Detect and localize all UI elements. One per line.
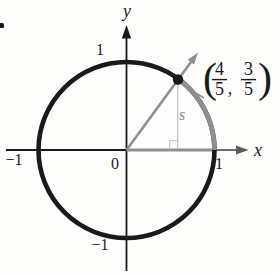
unit-circle-figure: y x 0 1 −1 −1 1 s ( 4 5 , 3 5 ) xyxy=(0,0,279,275)
fraction1-numerator: 4 xyxy=(215,59,224,79)
x-axis-label: x xyxy=(253,140,262,160)
fraction2-numerator: 3 xyxy=(244,59,253,79)
fraction2-denominator: 5 xyxy=(244,79,253,99)
x-axis-arrowhead-icon xyxy=(236,146,249,155)
y-tick-neg1: −1 xyxy=(91,236,108,253)
point-coordinate-label: ( 4 5 , 3 5 ) xyxy=(203,55,272,102)
origin-label: 0 xyxy=(111,155,119,172)
x-tick-1: 1 xyxy=(215,155,223,172)
x-tick-neg1: −1 xyxy=(5,151,22,168)
close-paren: ) xyxy=(258,55,272,102)
coordinate-comma: , xyxy=(228,78,233,98)
y-tick-1: 1 xyxy=(96,41,104,58)
arc-length-label: s xyxy=(179,106,185,123)
y-axis-label: y xyxy=(121,1,131,21)
fraction1-denominator: 5 xyxy=(215,79,224,99)
figure-svg: y x 0 1 −1 −1 1 s ( 4 5 , 3 5 ) xyxy=(0,0,279,275)
right-angle-mark-icon xyxy=(170,141,178,149)
list-marker-dot xyxy=(0,23,4,28)
point-dot xyxy=(173,74,183,84)
y-axis-arrowhead-icon xyxy=(122,25,131,39)
